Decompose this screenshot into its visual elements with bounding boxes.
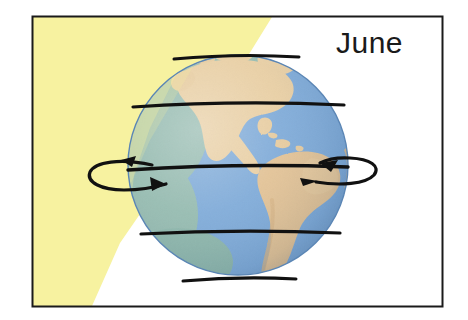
month-label: June (336, 28, 403, 58)
figure-root: June (0, 0, 468, 320)
